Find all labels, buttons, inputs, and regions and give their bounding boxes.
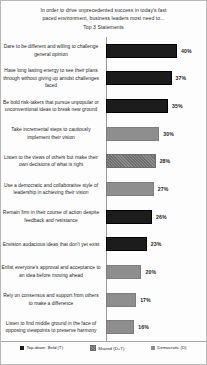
bar-zone: 20% — [104, 258, 206, 286]
legend-swatch-icon — [151, 346, 155, 350]
bar-zone: 27% — [104, 175, 206, 203]
bar-zone: 37% — [104, 65, 206, 93]
category-label: Use a democratic and collaborative style… — [1, 182, 104, 197]
bar-row: Listen to find middle ground in the face… — [1, 313, 206, 341]
plot-area: Dare to be different and willing to chal… — [1, 37, 206, 341]
bar-democratic — [106, 182, 154, 196]
bar-topdown — [106, 44, 177, 58]
legend-item-democratic[interactable]: Democratic (D) — [151, 345, 186, 350]
chart-container: In order to drive unprecedented success … — [0, 0, 207, 365]
bar-row: Be bold risk-takers that pursue unpopula… — [1, 92, 206, 120]
bar-row: Rely on consensus and support from other… — [1, 286, 206, 314]
bar-row: Dare to be different and willing to chal… — [1, 37, 206, 65]
category-label: Take incremental steps to cautiously imp… — [1, 126, 104, 141]
chart-legend: Top-down: Bold (T)Shared (D+T)Democratic… — [1, 341, 206, 364]
chart-title-line-1: In order to drive unprecedented success … — [10, 6, 197, 14]
chart-title: In order to drive unprecedented success … — [1, 1, 206, 31]
category-label: Rely on consensus and support from other… — [1, 292, 104, 307]
chart-subtitle: Top 3 Statements — [10, 23, 197, 31]
bar-row: Envision audacious ideas that don't yet … — [1, 230, 206, 258]
category-label: Envision audacious ideas that don't yet … — [1, 241, 104, 248]
bar-zone: 28% — [104, 148, 206, 176]
category-label: Dare to be different and willing to chal… — [1, 43, 104, 58]
category-label: Listen to the views of others but make t… — [1, 154, 104, 169]
bar-value-label: 37% — [176, 75, 187, 81]
bar-value-label: 30% — [163, 131, 174, 137]
legend-item-topdown[interactable]: Top-down: Bold (T) — [20, 345, 63, 350]
category-label: Remain firm in their course of action de… — [1, 209, 104, 224]
bar-zone: 35% — [104, 92, 206, 120]
category-label: Listen to find middle ground in the face… — [1, 320, 104, 335]
bar-zone: 30% — [104, 120, 206, 148]
bar-zone: 16% — [104, 313, 206, 341]
bar-topdown — [106, 210, 152, 224]
bar-democratic — [106, 127, 159, 141]
bar-democratic — [106, 320, 134, 334]
bar-row: Enlist everyone's approval and acceptanc… — [1, 258, 206, 286]
legend-swatch-icon — [20, 346, 24, 350]
bar-value-label: 20% — [145, 269, 156, 275]
bar-rows: Dare to be different and willing to chal… — [1, 37, 206, 341]
bar-value-label: 23% — [151, 241, 162, 247]
bar-row: Take incremental steps to cautiously imp… — [1, 120, 206, 148]
bar-democratic — [106, 265, 141, 279]
bar-zone: 23% — [104, 230, 206, 258]
bar-value-label: 27% — [158, 186, 169, 192]
bar-value-label: 40% — [181, 48, 192, 54]
bar-topdown — [106, 99, 168, 113]
bar-zone: 40% — [104, 37, 206, 65]
bar-zone: 26% — [104, 203, 206, 231]
bar-row: Use a democratic and collaborative style… — [1, 175, 206, 203]
bar-democratic — [106, 293, 136, 307]
category-label: Enlist everyone's approval and acceptanc… — [1, 264, 104, 279]
bar-value-label: 16% — [138, 324, 149, 330]
category-label: Be bold risk-takers that pursue unpopula… — [1, 99, 104, 114]
legend-label: Democratic (D) — [157, 345, 186, 350]
legend-item-shared[interactable]: Shared (D+T) — [90, 345, 124, 351]
legend-swatch-icon — [90, 345, 96, 351]
legend-label: Top-down: Bold (T) — [26, 345, 63, 350]
bar-value-label: 17% — [140, 297, 151, 303]
bar-row: Have long lasting energy to see their pl… — [1, 65, 206, 93]
bar-row: Remain firm in their course of action de… — [1, 203, 206, 231]
bar-topdown — [106, 237, 147, 251]
bar-value-label: 35% — [172, 103, 183, 109]
bar-topdown — [106, 71, 172, 85]
category-label: Have long lasting energy to see their pl… — [1, 67, 104, 89]
legend-label: Shared (D+T) — [98, 346, 124, 351]
bar-shared — [106, 154, 156, 168]
bar-value-label: 26% — [156, 214, 167, 220]
bar-row: Listen to the views of others but make t… — [1, 148, 206, 176]
bar-value-label: 28% — [160, 158, 171, 164]
bar-zone: 17% — [104, 286, 206, 314]
chart-title-line-2: paced environment, business leaders most… — [10, 14, 197, 22]
